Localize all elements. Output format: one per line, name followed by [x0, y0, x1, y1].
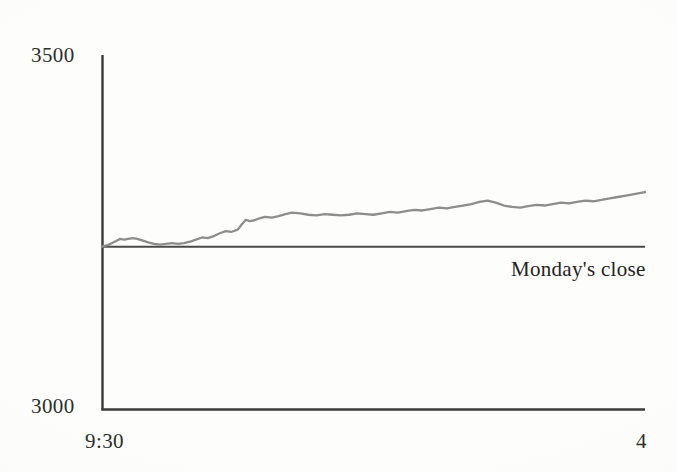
chart-figure: 3500 3000 9:30 4 Monday's close [0, 0, 677, 472]
index-level-series [102, 192, 645, 247]
x-axis-start-label: 9:30 [85, 431, 124, 452]
plot-canvas [0, 0, 677, 472]
x-axis-end-label: 4 [636, 431, 647, 452]
monday-close-annotation: Monday's close [511, 259, 646, 280]
y-axis-max-label: 3500 [31, 45, 75, 66]
y-axis-min-label: 3000 [31, 396, 75, 417]
